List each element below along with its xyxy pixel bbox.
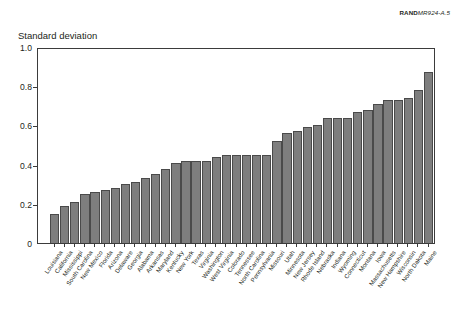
x-axis-tick-mark <box>276 244 277 247</box>
x-axis-tick-mark <box>347 244 348 247</box>
bar <box>404 98 413 243</box>
bar <box>161 169 170 243</box>
rand-logo-text: RAND <box>400 9 418 16</box>
bar <box>212 157 221 243</box>
x-axis-tick-mark <box>286 244 287 247</box>
x-axis-tick-mark <box>175 244 176 247</box>
bar <box>60 206 69 243</box>
x-axis-tick-marks <box>37 244 435 248</box>
x-axis-tick-mark <box>428 244 429 247</box>
bar <box>394 100 403 243</box>
x-axis-tick-mark <box>357 244 358 247</box>
bar <box>343 118 352 243</box>
y-axis-tick-label: 1.0 <box>20 43 32 53</box>
bar <box>70 202 79 243</box>
y-axis-title: Standard deviation <box>18 30 97 41</box>
bar <box>323 118 332 243</box>
bar <box>232 155 241 243</box>
x-axis-tick-mark <box>94 244 95 247</box>
x-axis-tick-mark <box>74 244 75 247</box>
x-axis-tick-mark <box>104 244 105 247</box>
bar <box>191 161 200 243</box>
bar <box>151 174 160 243</box>
x-axis-tick-mark <box>306 244 307 247</box>
x-axis-tick-mark <box>134 244 135 247</box>
y-axis-tick-label: 0.2 <box>20 200 32 210</box>
x-axis-tick-mark <box>64 244 65 247</box>
x-axis-tick-mark <box>326 244 327 247</box>
x-axis-category-labels: LouisianaCaliforniaMississippiSouth Caro… <box>37 249 437 315</box>
bar <box>262 155 271 243</box>
x-axis-tick-mark <box>246 244 247 247</box>
plot-area <box>37 48 435 244</box>
x-axis-tick-mark <box>84 244 85 247</box>
bar <box>242 155 251 243</box>
bar <box>181 161 190 243</box>
rand-source-credit: RANDMR924-A.5 <box>400 9 450 16</box>
y-axis-tick-label: 0.8 <box>20 82 32 92</box>
bar <box>111 188 120 243</box>
y-axis-tick-label: 0 <box>27 239 32 249</box>
x-axis-tick-mark <box>205 244 206 247</box>
x-axis-tick-mark <box>215 244 216 247</box>
x-axis-tick-mark <box>256 244 257 247</box>
bar <box>121 184 130 243</box>
bars-layer <box>38 49 434 243</box>
bar <box>353 112 362 243</box>
x-axis-tick-mark <box>266 244 267 247</box>
bar <box>414 90 423 243</box>
x-axis-tick-mark <box>124 244 125 247</box>
x-axis-tick-mark <box>407 244 408 247</box>
bar <box>171 163 180 243</box>
x-axis-tick-mark <box>387 244 388 247</box>
x-axis-tick-mark <box>417 244 418 247</box>
bar <box>50 214 59 243</box>
x-axis-tick-mark <box>337 244 338 247</box>
bar <box>282 133 291 243</box>
bar <box>80 194 89 243</box>
bar <box>383 100 392 243</box>
bar <box>363 110 372 243</box>
bar <box>293 131 302 243</box>
x-axis-tick-mark <box>195 244 196 247</box>
bar <box>272 141 281 243</box>
bar <box>141 178 150 243</box>
bar <box>131 182 140 243</box>
x-axis-tick-mark <box>155 244 156 247</box>
y-axis-tick-label: 0.4 <box>20 161 32 171</box>
x-axis-tick-mark <box>316 244 317 247</box>
x-axis-tick-mark <box>236 244 237 247</box>
bar <box>313 125 322 243</box>
x-axis-tick-mark <box>114 244 115 247</box>
x-axis-tick-mark <box>225 244 226 247</box>
bar <box>202 161 211 243</box>
bar <box>303 127 312 243</box>
bar <box>222 155 231 243</box>
y-axis-tick-labels: 00.20.40.60.81.0 <box>6 48 32 244</box>
x-axis-tick-mark <box>296 244 297 247</box>
bar-chart-figure: RANDMR924-A.5 Standard deviation 00.20.4… <box>0 0 458 315</box>
y-axis-tick-label: 0.6 <box>20 121 32 131</box>
bar <box>252 155 261 243</box>
bar <box>90 192 99 243</box>
x-axis-tick-mark <box>367 244 368 247</box>
bar <box>333 118 342 243</box>
x-axis-tick-mark <box>185 244 186 247</box>
x-axis-tick-mark <box>54 244 55 247</box>
bar <box>424 72 433 243</box>
x-axis-tick-mark <box>165 244 166 247</box>
bar <box>101 190 110 243</box>
x-axis-tick-mark <box>377 244 378 247</box>
x-axis-tick-mark <box>145 244 146 247</box>
x-axis-tick-mark <box>397 244 398 247</box>
rand-report-number: MR924-A.5 <box>418 9 450 16</box>
bar <box>373 104 382 243</box>
